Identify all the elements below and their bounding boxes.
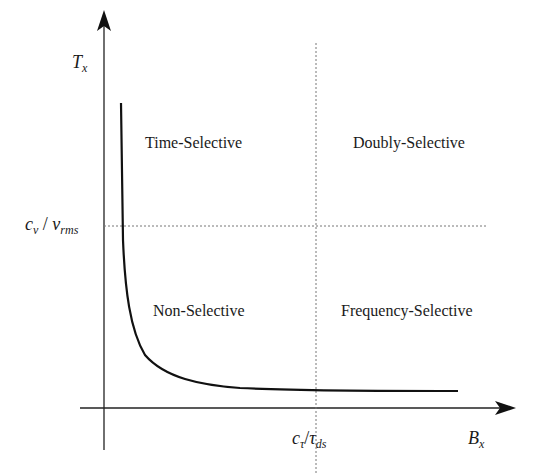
region-doubly-selective: Doubly-Selective — [353, 134, 465, 152]
y-threshold-label: cν / νrms — [25, 214, 78, 235]
region-time-selective: Time-Selective — [145, 134, 242, 152]
region-frequency-selective: Frequency-Selective — [341, 302, 473, 320]
y-axis-label: Tx — [72, 52, 87, 73]
x-axis-label: Bx — [468, 428, 484, 449]
region-non-selective: Non-Selective — [153, 302, 245, 320]
x-threshold-label: cτ/τds — [292, 428, 326, 449]
